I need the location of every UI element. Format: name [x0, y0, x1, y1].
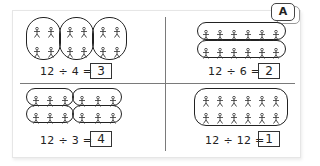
stick-figure-icon: [244, 44, 252, 54]
equation-text: 12 ÷ 3 =: [40, 134, 92, 147]
stick-figure-icon: [94, 109, 102, 119]
stick-figure-icon: [216, 109, 224, 119]
section-badge: A: [271, 3, 295, 21]
group-oval: [92, 17, 127, 60]
stick-figure-icon: [99, 23, 107, 33]
stick-figure-icon: [47, 43, 55, 53]
group-oval: [26, 17, 61, 60]
stick-figure-icon: [230, 92, 238, 102]
stick-figure-icon: [66, 43, 74, 53]
stick-figure-icon: [61, 109, 69, 119]
stick-figure-icon: [33, 23, 41, 33]
stick-figure-icon: [99, 43, 107, 53]
stick-figure-icon: [32, 92, 40, 102]
stick-figure-icon: [113, 43, 121, 53]
stick-figure-icon: [32, 109, 40, 119]
stick-figure-icon: [109, 109, 117, 119]
horizontal-divider: [20, 83, 295, 84]
equation-text: 12 ÷ 4 =: [40, 65, 92, 78]
stick-figure-icon: [258, 109, 266, 119]
equation-text: 12 ÷ 12 =: [205, 134, 265, 147]
stick-figure-icon: [94, 92, 102, 102]
stick-figure-icon: [202, 109, 210, 119]
stick-figure-icon: [216, 92, 224, 102]
stick-figure-icon: [47, 23, 55, 33]
stick-figure-icon: [46, 92, 54, 102]
stick-figure-icon: [80, 23, 88, 33]
stick-figure-icon: [230, 26, 238, 36]
stick-figure-icon: [244, 109, 252, 119]
stick-figure-icon: [202, 44, 210, 54]
stick-figure-icon: [113, 23, 121, 33]
equation-text: 12 ÷ 6 =: [208, 65, 260, 78]
stick-figure-icon: [230, 44, 238, 54]
stick-figure-icon: [61, 92, 69, 102]
stick-figure-icon: [272, 44, 280, 54]
stick-figure-icon: [78, 92, 86, 102]
stick-figure-icon: [202, 92, 210, 102]
stick-figure-icon: [109, 92, 117, 102]
stick-figure-icon: [272, 109, 280, 119]
stick-figure-icon: [272, 26, 280, 36]
stick-figure-icon: [33, 43, 41, 53]
stick-figure-icon: [258, 92, 266, 102]
stick-figure-icon: [216, 26, 224, 36]
answer-box: 3: [90, 63, 112, 79]
answer-box: 4: [90, 131, 112, 147]
stick-figure-icon: [46, 109, 54, 119]
stick-figure-icon: [80, 43, 88, 53]
vertical-divider: [165, 17, 166, 151]
stick-figure-icon: [78, 109, 86, 119]
stick-figure-icon: [66, 23, 74, 33]
stick-figure-icon: [244, 92, 252, 102]
stick-figure-icon: [202, 26, 210, 36]
answer-box: 2: [258, 63, 280, 79]
stick-figure-icon: [258, 26, 266, 36]
group-oval: [59, 17, 94, 60]
stick-figure-icon: [244, 26, 252, 36]
stick-figure-icon: [258, 44, 266, 54]
stick-figure-icon: [230, 109, 238, 119]
stick-figure-icon: [216, 44, 224, 54]
answer-box: 1: [258, 131, 280, 147]
stick-figure-icon: [272, 92, 280, 102]
